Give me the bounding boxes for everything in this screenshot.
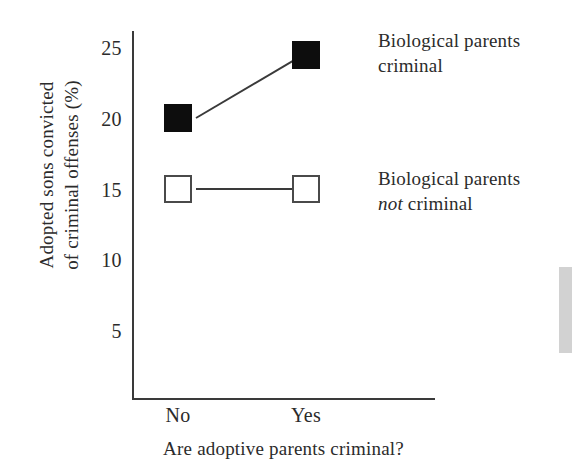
y-tick-label: 10 (84, 250, 122, 270)
data-point-criminal-no[interactable] (164, 104, 192, 132)
legend-label-line1: Biological parents (378, 166, 520, 191)
y-tick-25: 25 (84, 38, 122, 58)
x-axis-line (132, 398, 435, 400)
x-tick-label-no: No (138, 404, 218, 426)
y-tick-label: 25 (84, 38, 122, 58)
x-axis-title: Are adoptive parents criminal? (132, 437, 435, 461)
legend-label-line2: criminal (378, 53, 520, 78)
legend-label-line2: not criminal (378, 191, 520, 216)
y-tick-5: 5 (84, 321, 122, 341)
chart-figure: 25 20 15 10 5 Adopted sons convicted of … (0, 0, 578, 475)
legend-label-line1: Biological parents (378, 28, 520, 53)
legend-label-emphasis: not (378, 193, 403, 214)
series-line-biological-parents-criminal (195, 59, 294, 119)
y-axis-line (132, 31, 134, 400)
data-point-not-criminal-no[interactable] (164, 175, 192, 203)
x-tick-label-yes: Yes (266, 404, 346, 426)
y-tick-label: 20 (84, 109, 122, 129)
y-axis-title: Adopted sons convicted of criminal offen… (34, 30, 84, 320)
y-axis-title-line1: Adopted sons convicted (34, 30, 59, 320)
legend-item-biological-parents-criminal: Biological parents criminal (378, 28, 520, 78)
legend-item-biological-parents-not-criminal: Biological parents not criminal (378, 166, 520, 216)
data-point-criminal-yes[interactable] (292, 41, 320, 69)
y-tick-15: 15 (84, 180, 122, 200)
y-tick-label: 15 (84, 180, 122, 200)
y-tick-20: 20 (84, 109, 122, 129)
legend-label-rest: criminal (403, 193, 473, 214)
scan-artifact-strip (559, 267, 572, 353)
y-tick-10: 10 (84, 250, 122, 270)
y-axis-title-line2: of criminal offenses (%) (59, 30, 84, 320)
data-point-not-criminal-yes[interactable] (292, 175, 320, 203)
y-tick-label: 5 (84, 321, 122, 341)
